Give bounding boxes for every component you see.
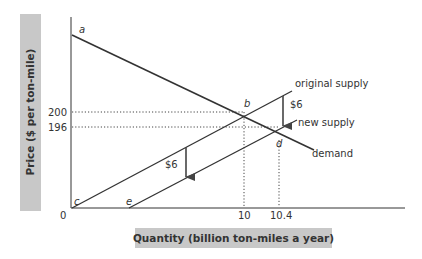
new-supply-label: new supply	[298, 117, 355, 128]
demand-label: demand	[312, 148, 353, 159]
shift-label-lower: $6	[165, 159, 178, 170]
x-tick-10: 10	[238, 210, 251, 221]
y-tick-200: 200	[48, 107, 67, 118]
point-d-label: d	[276, 138, 283, 149]
point-a-label: a	[79, 24, 85, 35]
point-b-label: b	[244, 98, 250, 109]
point-e-label: e	[126, 196, 132, 207]
x-tick-10-4: 10.4	[270, 210, 292, 221]
demand-line	[72, 35, 314, 150]
shift-label-upper: $6	[290, 99, 303, 110]
chart-plot: a b c d e 0 200 196 10 10.4 original sup…	[0, 0, 422, 259]
y-tick-196: 196	[48, 122, 67, 133]
original-supply-line	[72, 91, 292, 208]
original-supply-label: original supply	[295, 78, 369, 89]
point-c-label: c	[74, 196, 80, 207]
origin-label: 0	[60, 210, 66, 221]
